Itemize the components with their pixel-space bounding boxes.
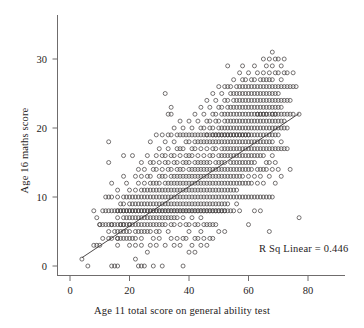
x-tick-label: 20 xyxy=(124,285,135,296)
plot-canvas: 020406080 0102030 R Sq Linear = 0.446 xyxy=(0,0,364,328)
y-tick-label: 30 xyxy=(37,54,48,65)
y-tick-label: 0 xyxy=(42,261,47,272)
scatter-plot-figure: 020406080 0102030 R Sq Linear = 0.446 Ag… xyxy=(0,0,364,328)
x-tick-label: 60 xyxy=(243,285,254,296)
y-axis-title: Age 16 maths score xyxy=(19,61,30,241)
x-tick-label: 40 xyxy=(184,285,195,296)
x-tick-label: 80 xyxy=(303,285,314,296)
x-axis-title: Age 11 total score on general ability te… xyxy=(0,305,364,316)
r-squared-annotation: R Sq Linear = 0.446 xyxy=(259,243,348,254)
x-tick-label: 0 xyxy=(67,285,72,296)
y-tick-label: 10 xyxy=(37,192,48,203)
y-tick-label: 20 xyxy=(37,123,48,134)
